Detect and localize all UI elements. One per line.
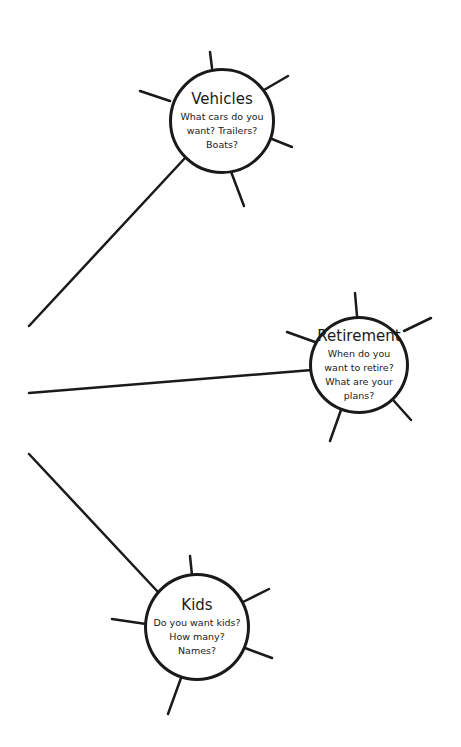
node-title: Kids [181,597,212,614]
connector-kids [29,454,158,592]
connector-vehicles [29,158,185,326]
node-vehicles: Vehicles What cars do you want? Trailers… [169,68,275,174]
node-retirement: Retirement When do you want to retire? W… [309,316,409,414]
node-body: What cars do you want? Trailers? Boats? [172,110,272,152]
node-body: When do you want to retire? What are you… [312,347,406,403]
node-body: Do you want kids? How many? Names? [147,616,247,658]
connector-retirement [29,370,312,393]
node-kids: Kids Do you want kids? How many? Names? [144,573,250,681]
node-title: Retirement [317,328,400,345]
node-title: Vehicles [191,91,252,108]
